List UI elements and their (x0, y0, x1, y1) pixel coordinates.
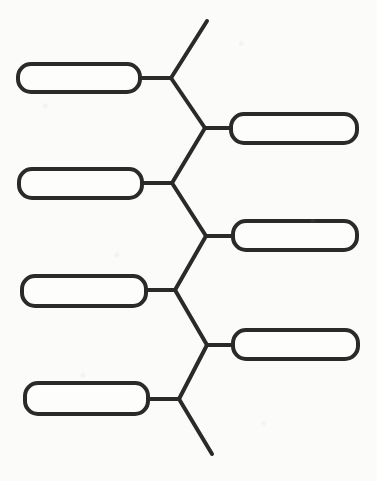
connector-link-j5-j4 (175, 236, 206, 290)
box-left-1-outline[interactable] (18, 64, 140, 92)
box-left-2[interactable] (19, 169, 142, 198)
connector-link-j1-j2 (171, 78, 205, 128)
box-left-2-outline[interactable] (19, 169, 142, 198)
box-right-2[interactable] (233, 221, 357, 250)
connector-link-j3-j2 (172, 128, 205, 183)
box-left-4[interactable] (25, 383, 148, 414)
box-right-3[interactable] (233, 330, 358, 359)
bracket-tree-diagram (0, 0, 377, 481)
box-right-3-outline[interactable] (233, 330, 358, 359)
box-left-3[interactable] (22, 276, 146, 306)
box-right-2-outline[interactable] (233, 221, 357, 250)
connector-link-j5-j6 (175, 290, 207, 345)
connector-link-j3-j4 (172, 183, 206, 236)
connector-stub-bottom (179, 399, 212, 454)
box-right-1-outline[interactable] (231, 114, 357, 143)
box-right-1[interactable] (231, 114, 357, 143)
box-left-3-outline[interactable] (22, 276, 146, 306)
label-boxes-group (18, 64, 358, 414)
connector-lines-group (140, 21, 233, 454)
box-left-4-outline[interactable] (25, 383, 148, 414)
diagram-page (0, 0, 377, 481)
connector-stub-top (171, 21, 207, 78)
box-left-1[interactable] (18, 64, 140, 92)
connector-link-j7-j6 (179, 345, 207, 399)
